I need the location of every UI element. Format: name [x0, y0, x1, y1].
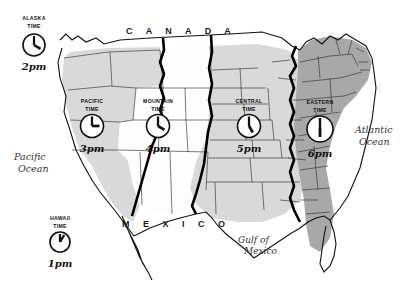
- hawaii-zone-name-line1: HAWAII: [50, 215, 71, 221]
- map-canvas: C A N A D A M E X I C O Pacific Ocean At…: [0, 0, 415, 285]
- alaska-zone-name-line1: ALASKA: [22, 15, 45, 21]
- atlantic-ocean-line2: Ocean: [359, 136, 390, 147]
- mountain-zone-name-line2: TIME: [151, 106, 165, 112]
- gulf-of-mexico-line2: Mexico: [243, 246, 278, 256]
- ocean-label-pacific: Pacific Ocean: [13, 151, 49, 174]
- eastern-zone-name-line1: EASTERN: [307, 99, 334, 105]
- pacific-time-label: 3pm: [80, 143, 105, 154]
- pacific-ocean-line2: Ocean: [18, 163, 49, 174]
- pacific-ocean-line1: Pacific: [13, 151, 46, 162]
- mountain-zone-name-line1: MOUNTAIN: [143, 98, 173, 104]
- gulf-of-mexico-line1: Gulf of: [238, 235, 270, 245]
- country-label-canada: C A N A D A: [126, 26, 236, 36]
- eastern-zone-name-line2: TIME: [313, 107, 327, 113]
- pacific-zone-name-line2: TIME: [85, 106, 99, 112]
- atlantic-ocean-line1: Atlantic: [354, 124, 393, 135]
- hawaii-zone-name-line2: TIME: [53, 223, 67, 229]
- pacific-zone-name-line1: PACIFIC: [81, 98, 103, 104]
- central-time-label: 5pm: [237, 143, 262, 154]
- alaska-time-label: 2pm: [21, 61, 47, 72]
- country-label-mexico: M E X I C O: [122, 219, 231, 229]
- alaska-zone-name-line2: TIME: [27, 23, 41, 29]
- hawaii-time-label: 1pm: [48, 258, 73, 269]
- timezone-map: C A N A D A M E X I C O Pacific Ocean At…: [0, 0, 415, 285]
- mountain-time-label: 4pm: [146, 143, 171, 154]
- central-zone-name-line2: TIME: [242, 106, 256, 112]
- ocean-label-atlantic: Atlantic Ocean: [354, 124, 393, 147]
- central-zone-name-line1: CENTRAL: [236, 98, 263, 104]
- eastern-time-label: 6pm: [308, 148, 333, 159]
